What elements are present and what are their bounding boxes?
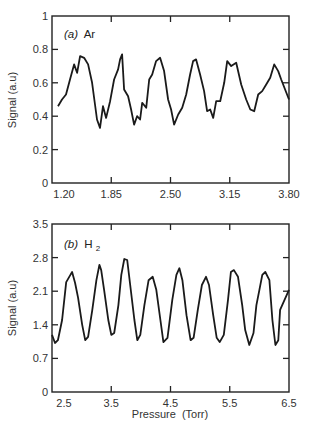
y-tick-label: 0 [42, 386, 48, 398]
panel-b-x-ticks: 2.53.54.55.56.5 [56, 224, 296, 409]
y-tick-label: 3.5 [33, 218, 48, 230]
y-tick-label: 2.8 [33, 252, 48, 264]
x-tick-label: 3.5 [104, 397, 119, 409]
panel-b-y-axis-title: Signal (a.u) [6, 280, 18, 336]
y-tick-label: 0.7 [33, 352, 48, 364]
panel-b-label: (b) H 2 [64, 238, 101, 253]
panel-a-x-ticks: 1.201.852.503.153.80 [53, 16, 299, 200]
panel-a-ar: 00.20.40.60.81 1.201.852.503.153.80 (a) … [6, 10, 300, 200]
x-tick-label: 5.5 [222, 397, 237, 409]
y-tick-label: 0.6 [33, 77, 48, 89]
panel-a-ar-trace [58, 54, 289, 128]
y-tick-label: 0.2 [33, 144, 48, 156]
x-tick-label: 3.80 [278, 188, 299, 200]
chart-figure: 00.20.40.60.81 1.201.852.503.153.80 (a) … [0, 0, 309, 431]
x-tick-label: 2.5 [56, 397, 71, 409]
y-tick-label: 0 [42, 177, 48, 189]
x-tick-label: 6.5 [281, 397, 296, 409]
panel-a-y-axis-title: Signal (a.u) [6, 72, 18, 128]
x-tick-label: 1.85 [101, 188, 122, 200]
panel-a-frame [52, 16, 289, 183]
y-tick-label: 2.1 [33, 285, 48, 297]
panel-b-h2-trace [52, 259, 289, 345]
panel-b-h2: 00.71.42.12.83.5 2.53.54.55.56.5 (b) H 2… [6, 218, 297, 420]
panel-a-label: (a) Ar [64, 28, 95, 40]
y-tick-label: 1 [42, 10, 48, 22]
panel-b-x-axis-title: Pressure (Torr) [132, 408, 208, 420]
y-tick-label: 1.4 [33, 319, 48, 331]
y-tick-label: 0.8 [33, 43, 48, 55]
x-tick-label: 3.15 [219, 188, 240, 200]
x-tick-label: 2.50 [160, 188, 181, 200]
x-tick-label: 1.20 [53, 188, 74, 200]
y-tick-label: 0.4 [33, 110, 48, 122]
